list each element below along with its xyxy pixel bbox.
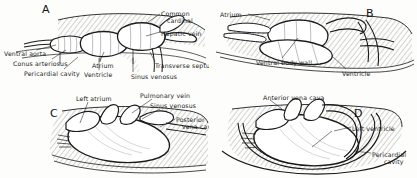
- panel-d-leader-lines: [208, 89, 417, 178]
- panel-c-leader-lines: [0, 89, 209, 178]
- panel-a: A Common cardinal Hepatic vein Ventral a…: [0, 0, 209, 89]
- heart-development-figure: A Common cardinal Hepatic vein Ventral a…: [0, 0, 417, 178]
- panel-b: B Atrium Ventral body wall Ventricle: [208, 0, 417, 89]
- panel-d: D Anterior vena cava Left ventricle Peri…: [208, 89, 417, 178]
- panel-c: C Left atrium Pulmonary vein Sinus venos…: [0, 89, 209, 178]
- panel-b-leader-lines: [208, 0, 417, 89]
- panel-a-leader-lines: [0, 0, 209, 89]
